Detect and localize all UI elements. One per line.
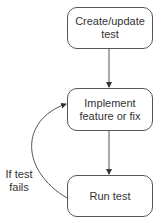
node-label-line: test	[101, 28, 119, 41]
loop-label-line1: If test	[2, 168, 36, 181]
arrow-run-to-implement-loop	[32, 104, 67, 198]
loop-label-line2: fails	[2, 181, 36, 194]
node-run-test: Run test	[67, 175, 153, 217]
node-label-line: Create/update	[75, 15, 145, 28]
node-label-line: Implement	[84, 97, 135, 110]
node-label-line: Run test	[90, 190, 131, 203]
node-create-update-test: Create/update test	[67, 7, 153, 49]
node-label-line: feature or fix	[79, 110, 140, 123]
node-implement-feature: Implement feature or fix	[67, 88, 153, 131]
loop-label: If test fails	[2, 168, 36, 194]
